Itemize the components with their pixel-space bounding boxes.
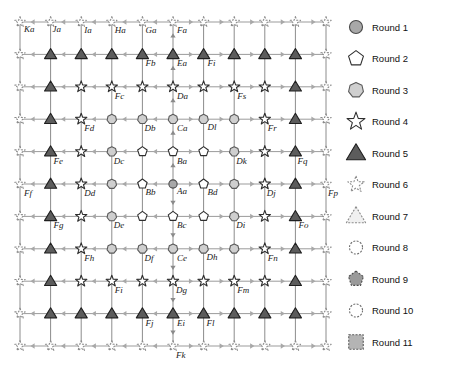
grid-node-r10-c3[interactable] [107,341,117,351]
grid-node-r1-c7[interactable] [228,49,240,59]
grid-node-r1-c3[interactable] [106,49,118,59]
legend-item-8[interactable]: Round 8 [349,241,407,254]
grid-node-r3-c3[interactable] [107,114,116,123]
grid-node-r9-c4[interactable] [136,308,148,318]
grid-node-r9-c1[interactable] [45,308,57,318]
grid-node-r10-c1[interactable] [45,341,55,351]
grid-node-r2-c9[interactable] [289,81,301,91]
grid-node-r7-c7[interactable] [229,244,238,253]
grid-node-r9-c9[interactable] [289,308,301,318]
legend-item-1[interactable]: Round 1 [349,20,407,33]
grid-node-r7-c5[interactable] [168,244,177,253]
grid-node-r6-c5[interactable] [168,211,177,220]
grid-node-r3-c4[interactable] [138,114,147,123]
grid-node-r3-c1[interactable] [45,113,57,123]
grid-node-r7-c9[interactable] [289,243,301,253]
grid-node-r6-c6[interactable] [199,211,208,220]
grid-node-r6-c7[interactable] [229,212,238,221]
arrow-head-icon [220,84,224,89]
legend-item-5[interactable]: Round 5 [346,144,407,160]
grid-node-r1-c6[interactable] [198,49,210,59]
arrow-head-icon [189,311,193,316]
arrow-head-icon [281,149,285,154]
node-label: Ff [23,188,33,198]
node-label: Bc [177,220,187,230]
grid-node-r9-c8[interactable] [259,308,271,318]
arrow-head-icon [122,52,126,57]
grid-node-r1-c2[interactable] [75,49,87,59]
legend-item-10[interactable]: Round 10 [349,304,413,317]
node-label: Ka [23,24,35,34]
grid-node-r6-c1[interactable] [45,211,57,221]
grid-node-r8-c9[interactable] [289,275,301,285]
grid-node-r1-c1[interactable] [45,49,57,59]
grid-node-r4-c1[interactable] [45,146,57,156]
grid-node-r1-c8[interactable] [259,49,271,59]
node-label: Dj [266,188,276,198]
legend-item-9[interactable]: Round 9 [349,271,408,285]
grid-node-r1-c5[interactable] [167,49,179,59]
grid-node-r1-c4[interactable] [136,49,148,59]
grid-node-r6-c3[interactable] [107,212,116,221]
grid-node-r5-c3[interactable] [107,179,116,188]
grid-node-r4-c7[interactable] [229,147,238,156]
grid-node-r10-c7[interactable] [229,341,239,351]
grid-node-r10-c2[interactable] [76,341,86,351]
arrow-head-icon [250,52,254,57]
grid-node-r10-c6[interactable] [198,341,208,351]
grid-node-r9-c2[interactable] [75,308,87,318]
legend-item-7[interactable]: Round 7 [346,207,407,223]
grid-node-r3-c9[interactable] [289,113,301,123]
node-label: Fn [267,253,278,263]
legend-item-6[interactable]: Round 6 [348,176,408,191]
grid-node-r9-c5[interactable] [167,308,179,318]
arrow-head-icon [311,343,315,348]
arrow-head-icon [311,19,315,24]
arrow-head-icon [122,84,126,89]
grid-node-r9-c7[interactable] [228,308,240,318]
grid-node-r7-c4[interactable] [138,244,147,253]
grid-node-r5-c1[interactable] [45,178,57,188]
grid-node-r8-c1[interactable] [45,275,57,285]
grid-node-r5-c9[interactable] [289,178,301,188]
grid-node-r10-c9[interactable] [290,341,300,351]
grid-node-r7-c1[interactable] [45,243,57,253]
node-label: Dd [83,188,95,198]
arrow-head-icon [153,214,157,219]
grid-node-r3-c5[interactable] [168,114,177,123]
arrow-head-icon [122,279,126,284]
arrow-head-icon [250,84,254,89]
grid-node-r6-c9[interactable] [289,211,301,221]
grid-node-r10-c0[interactable] [15,341,25,351]
grid-node-r10-c8[interactable] [260,341,270,351]
grid-node-r4-c4[interactable] [138,147,147,156]
grid-node-r4-c5[interactable] [168,147,177,156]
grid-node-r6-c4[interactable] [138,211,147,220]
grid-node-r3-c7[interactable] [229,114,238,123]
grid-node-r4-c9[interactable] [289,146,301,156]
legend-item-3[interactable]: Round 3 [349,82,408,96]
grid-node-r9-c3[interactable] [106,308,118,318]
grid-node-r5-c7[interactable] [229,179,238,188]
grid-node-r10-c10[interactable] [321,341,331,351]
arrow-head-icon [92,279,96,284]
node-label: Ce [177,253,187,263]
legend-item-4[interactable]: Round 4 [347,112,408,129]
grid-node-r4-c3[interactable] [107,147,116,156]
legend-label: Round 5 [372,148,408,159]
grid-node-r5-c5[interactable] [169,180,177,188]
grid-node-r9-c6[interactable] [198,308,210,318]
arrow-head-icon [153,181,157,186]
legend-item-11[interactable]: Round 11 [349,335,413,350]
grid-node-r4-c6[interactable] [199,147,208,156]
legend-label: Round 3 [372,85,408,96]
legend-item-2[interactable]: Round 2 [349,51,408,65]
grid-node-r7-c3[interactable] [107,244,116,253]
grid-node-r2-c1[interactable] [45,81,57,91]
node-label: De [113,220,125,230]
grid-node-r10-c5[interactable] [168,341,178,351]
grid-node-r10-c4[interactable] [137,341,147,351]
arrow-head-icon [281,181,285,186]
node-label: Fe [53,156,64,166]
grid-node-r1-c9[interactable] [289,49,301,59]
